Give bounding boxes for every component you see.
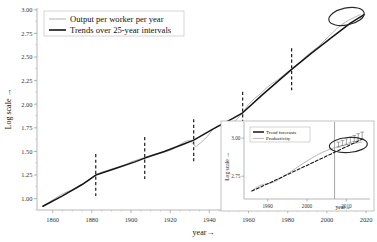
y-tick-label: 1.75 xyxy=(21,124,32,131)
inset-x-tick-label: 2000 xyxy=(302,203,313,209)
y-tick-label: 2.50 xyxy=(21,53,32,60)
y-tick-label: 2.00 xyxy=(21,101,32,108)
figure-container: 1.001.251.501.752.002.252.502.753.001860… xyxy=(0,0,377,242)
x-axis-label: year→ xyxy=(193,228,215,237)
x-tick-label: 1900 xyxy=(125,216,138,223)
y-axis-label: Log scale → xyxy=(4,89,13,130)
x-tick-label: 2020 xyxy=(360,216,373,223)
inset-y-axis-label: Log scale → xyxy=(224,152,230,181)
legend-label: Output per worker per year xyxy=(70,14,164,24)
y-tick-label: 1.50 xyxy=(21,148,32,155)
x-tick-label: 1980 xyxy=(281,216,294,223)
x-tick-label: 1940 xyxy=(203,216,216,223)
inset-x-axis-label: year→ xyxy=(335,204,350,210)
inset-y-tick-label: 2.75 xyxy=(231,173,240,179)
x-tick-label: 1960 xyxy=(242,216,255,223)
inset-legend-label: Productivity xyxy=(266,136,291,141)
inset-y-tick-label: 3.00 xyxy=(231,135,240,141)
y-tick-label: 2.25 xyxy=(21,77,32,84)
inset-legend-label: Trend forecasts xyxy=(266,130,296,135)
y-tick-label: 2.75 xyxy=(21,30,32,37)
inset-x-tick-label: 1990 xyxy=(262,203,273,209)
x-tick-label: 1920 xyxy=(164,216,177,223)
y-tick-label: 1.00 xyxy=(21,195,32,202)
y-tick-label: 3.00 xyxy=(21,6,32,13)
y-tick-label: 1.25 xyxy=(21,171,32,178)
x-tick-label: 1860 xyxy=(46,216,59,223)
x-tick-label: 2000 xyxy=(321,216,334,223)
x-tick-label: 1880 xyxy=(85,216,98,223)
productivity-log-scale-chart: 1.001.251.501.752.002.252.502.753.001860… xyxy=(0,0,377,242)
legend-label: Trends over 25-year intervals xyxy=(70,25,172,35)
